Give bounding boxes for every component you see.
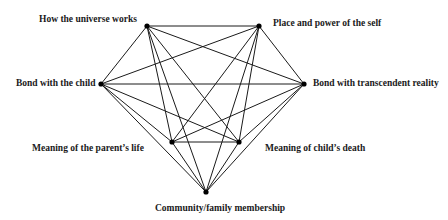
node-self — [256, 23, 261, 28]
edges — [101, 26, 304, 192]
edge-child-community — [101, 84, 206, 192]
label-bond-with-transcendent-reality: Bond with transcendent reality — [313, 78, 439, 89]
label-how-the-universe-works: How the universe works — [39, 14, 137, 25]
complete-graph — [0, 0, 448, 220]
edge-child_death-community — [206, 142, 239, 192]
node-transcendent — [301, 81, 306, 86]
edge-transcendent-child_death — [239, 84, 304, 142]
node-child_death — [236, 139, 241, 144]
label-community-family-membership: Community/family membership — [155, 203, 285, 214]
node-child — [98, 81, 103, 86]
edge-transcendent-community — [206, 84, 304, 192]
node-community — [203, 189, 208, 194]
node-parent_life — [169, 139, 174, 144]
edge-parent_life-community — [172, 142, 206, 192]
edge-self-child — [101, 26, 259, 84]
label-place-and-power-of-the-self: Place and power of the self — [273, 18, 381, 29]
label-meaning-of-childs-death: Meaning of child’s death — [265, 143, 365, 154]
diagram-canvas: How the universe works Place and power o… — [0, 0, 448, 220]
label-bond-with-the-child: Bond with the child — [16, 78, 95, 89]
label-meaning-of-parents-life: Meaning of the parent’s life — [32, 143, 144, 154]
node-universe — [144, 23, 149, 28]
